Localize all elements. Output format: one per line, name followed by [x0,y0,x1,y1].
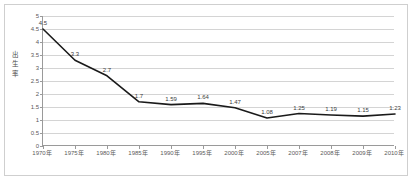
series-line [43,29,395,118]
data-point-label: 1.64 [197,94,209,100]
x-axis-ticks: 1970年1975年1980年1985年1990年1995年2000年2005年… [42,150,394,164]
x-axis-tick-label: 2009年 [352,150,371,156]
x-axis-tick-mark [363,146,364,149]
x-axis-tick-mark [395,146,396,149]
x-axis-tick-mark [235,146,236,149]
data-point-label: 1.59 [165,96,177,102]
data-point-label: 1.7 [135,93,143,99]
y-axis-tick-label: 3 [36,65,39,71]
chart-figure: 出生率 00.511.522.533.544.55 4.53.32.71.71.… [0,0,412,180]
x-axis-tick-mark [267,146,268,149]
x-axis-tick-mark [171,146,172,149]
x-axis-tick-mark [139,146,140,149]
x-axis-tick-label: 2010年 [384,150,403,156]
data-point-label: 4.5 [39,20,47,26]
data-point-label: 2.7 [103,67,111,73]
x-axis-tick-label: 2007年 [288,150,307,156]
y-axis-tick-label: 1 [36,117,39,123]
x-axis-tick-label: 1975年 [64,150,83,156]
x-axis-tick-mark [107,146,108,149]
y-axis-tick-label: 4 [36,39,39,45]
x-axis-tick-label: 2005年 [256,150,275,156]
y-axis-tick-label: 1.5 [31,104,39,110]
data-point-label: 1.19 [325,106,337,112]
x-axis-tick-label: 2008年 [320,150,339,156]
data-point-label: 3.3 [71,51,79,57]
data-point-label: 1.23 [389,105,401,111]
x-axis-tick-mark [75,146,76,149]
y-axis-tick-label: 2 [36,91,39,97]
y-axis-tick-label: 4.5 [31,26,39,32]
plot-area: 00.511.522.533.544.55 4.53.32.71.71.591.… [42,16,394,146]
y-axis-tick-label: 0 [36,143,39,149]
x-axis-tick-mark [331,146,332,149]
y-axis-title: 出生率 [10,50,20,78]
data-point-label: 1.25 [293,105,305,111]
y-axis-tick-label: 5 [36,13,39,19]
x-axis-tick-mark [43,146,44,149]
y-axis-tick-label: 2.5 [31,78,39,84]
x-axis-tick-mark [299,146,300,149]
x-axis-tick-label: 1970年 [32,150,51,156]
x-axis-tick-label: 1985年 [128,150,147,156]
data-point-label: 1.15 [357,107,369,113]
y-axis-tick-label: 3.5 [31,52,39,58]
data-point-label: 1.08 [261,109,273,115]
data-point-label: 1.47 [229,99,241,105]
x-axis-tick-label: 1980年 [96,150,115,156]
x-axis-tick-mark [203,146,204,149]
x-axis-tick-label: 1990年 [160,150,179,156]
x-axis-tick-label: 2000年 [224,150,243,156]
line-series [43,16,395,146]
y-axis-tick-label: 0.5 [31,130,39,136]
x-axis-tick-label: 1995年 [192,150,211,156]
